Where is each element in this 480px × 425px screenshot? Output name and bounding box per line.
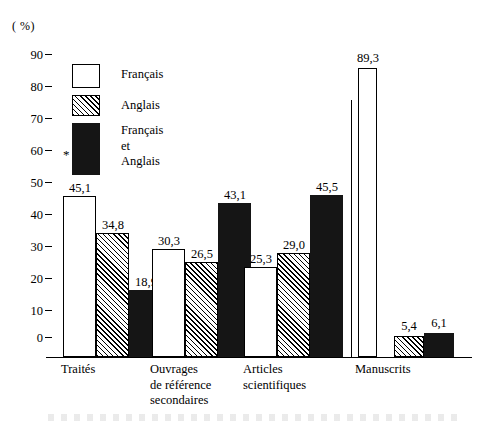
legend-item-anglais: Anglais [72, 95, 163, 116]
x-axis-baseline [46, 357, 472, 358]
bar-value-manuscrits-francais: 89,3 [343, 52, 393, 65]
y-tick-dash-icon [45, 86, 52, 87]
y-tick-label-60: 60 [31, 144, 45, 158]
y-tick-dash-icon [45, 182, 52, 183]
y-tick-label-30: 30 [31, 240, 45, 254]
y-tick-label-40: 40 [31, 208, 45, 222]
y-tick-20: 20 [0, 272, 52, 286]
y-tick-80: 80 [0, 80, 52, 94]
bar-value-articles-francais-et-anglais: 45,5 [302, 181, 352, 194]
y-tick-dash-icon [45, 214, 52, 215]
y-tick-dash-icon [45, 278, 52, 279]
bar-value-articles-anglais: 29,0 [269, 239, 319, 252]
group-divider-left [351, 100, 352, 357]
bar-manuscrits-francais-et-anglais [424, 333, 454, 357]
legend-swatch-white-icon [72, 64, 100, 88]
legend-label-francais-et-anglais: Français et Anglais [121, 123, 163, 170]
x-axis-label-ouvrages: Ouvrages de référence secondaires [150, 362, 211, 409]
bar-value-traites-francais: 45,1 [55, 182, 105, 195]
legend-item-francais-et-anglais: Français et Anglais [72, 123, 163, 175]
y-tick-label-0: 0 [37, 331, 44, 345]
asterisk-annotation: * [63, 148, 70, 161]
bar-manuscrits-anglais [394, 336, 424, 357]
bar-manuscrits-francais [358, 68, 377, 357]
bar-value-ouvrages-anglais: 26,5 [177, 248, 227, 261]
y-tick-label-10: 10 [31, 304, 45, 318]
page-artifact-strip [48, 414, 460, 421]
bar-value-ouvrages-francais: 30,3 [144, 235, 194, 248]
bar-value-articles-francais: 25,3 [236, 253, 286, 266]
bar-ouvrages-anglais [185, 262, 218, 357]
bar-value-traites-anglais: 34,8 [88, 219, 138, 232]
bar-traites-anglais [96, 233, 129, 357]
y-tick-label-50: 50 [31, 176, 45, 190]
y-tick-50: 50 [0, 176, 52, 190]
chart-legend: Français Anglais Français et Anglais [72, 64, 163, 182]
bar-value-ouvrages-francais-et-anglais: 43,1 [210, 189, 260, 202]
y-tick-label-90: 90 [31, 48, 45, 62]
y-tick-40: 40 [0, 208, 52, 222]
y-tick-90: 90 [0, 48, 52, 62]
bar-chart: ( %) 90 80 70 60 50 40 30 20 10 0 França… [0, 0, 480, 425]
y-tick-dash-icon [45, 118, 52, 119]
y-tick-label-20: 20 [31, 272, 45, 286]
bar-ouvrages-francais [152, 249, 185, 357]
y-tick-dash-icon [45, 150, 52, 151]
bar-articles-anglais [277, 253, 310, 357]
y-tick-dash-icon [45, 337, 52, 338]
y-tick-dash-icon [45, 54, 52, 55]
y-tick-60: 60 [0, 144, 52, 158]
bar-articles-francais [244, 267, 277, 357]
y-tick-label-70: 70 [31, 112, 45, 126]
y-tick-70: 70 [0, 112, 52, 126]
x-axis-label-traites: Traités [61, 362, 95, 378]
legend-label-francais: Français [121, 64, 163, 83]
y-tick-label-80: 80 [31, 80, 45, 94]
bar-articles-francais-et-anglais [310, 195, 343, 357]
y-tick-10: 10 [0, 304, 52, 318]
y-tick-0: 0 [0, 331, 52, 345]
y-tick-dash-icon [45, 246, 52, 247]
legend-label-anglais: Anglais [121, 95, 160, 114]
x-axis-label-manuscrits: Manuscrits [355, 362, 411, 378]
bar-value-manuscrits-francais-et-anglais: 6,1 [414, 317, 464, 330]
legend-swatch-black-icon [72, 123, 100, 175]
y-tick-30: 30 [0, 240, 52, 254]
x-axis-label-articles: Articles scientifiques [243, 362, 306, 393]
y-tick-dash-icon [45, 310, 52, 311]
legend-swatch-hatched-icon [72, 95, 100, 116]
legend-item-francais: Français [72, 64, 163, 88]
y-axis-unit-label: ( %) [12, 19, 35, 34]
